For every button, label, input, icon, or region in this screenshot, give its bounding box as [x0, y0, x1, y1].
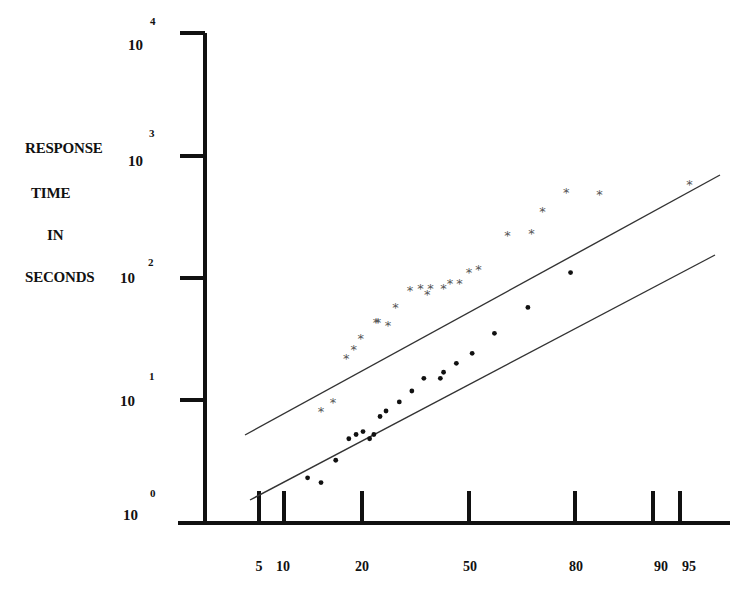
- y-axis-title-line-2: TIME: [31, 185, 70, 202]
- y-tick-exp-1e2: 2: [148, 256, 154, 268]
- x-tick-label-10: 10: [276, 559, 290, 575]
- dot-marker: [421, 376, 426, 381]
- y-tick-label-1e1: 10: [120, 393, 135, 410]
- chart-canvas: ************************: [0, 0, 751, 594]
- asterisk-marker: *: [343, 351, 350, 366]
- asterisk-marker: *: [375, 315, 382, 330]
- dot-marker: [454, 361, 459, 366]
- y-tick-label-1e2: 10: [120, 270, 135, 287]
- dot-marker: [470, 351, 475, 356]
- asterisk-marker: *: [456, 276, 463, 291]
- dot-marker: [333, 458, 338, 463]
- dot-marker: [409, 389, 414, 394]
- x-tick-label-50: 50: [463, 559, 477, 575]
- y-tick-exp-1e1: 1: [149, 370, 155, 382]
- y-tick-label-1e3: 10: [128, 153, 143, 170]
- y-tick-label-1e4: 10: [128, 37, 143, 54]
- dot-marker: [378, 414, 383, 419]
- y-axis-title-line-1: RESPONSE: [25, 140, 103, 157]
- x-tick-label-95: 95: [682, 559, 696, 575]
- asterisk-marker: *: [385, 318, 392, 333]
- asterisk-marker: *: [318, 404, 325, 419]
- dot-marker: [438, 376, 443, 381]
- asterisk-marker: *: [563, 185, 570, 200]
- asterisk-marker: *: [330, 395, 337, 410]
- asterisk-marker: *: [528, 226, 535, 241]
- dot-marker: [568, 270, 573, 275]
- dot-marker: [526, 305, 531, 310]
- x-tick-label-90: 90: [654, 559, 668, 575]
- dot-marker: [397, 400, 402, 405]
- asterisk-marker: *: [427, 281, 434, 296]
- asterisk-marker: *: [350, 342, 357, 357]
- y-axis: [180, 33, 205, 524]
- y-axis-title-line-3: IN: [47, 227, 63, 244]
- dot-marker: [384, 409, 389, 414]
- x-axis: [178, 491, 730, 523]
- dot-marker: [305, 475, 310, 480]
- asterisk-marker: *: [447, 276, 454, 291]
- asterisk-marker: *: [596, 187, 603, 202]
- dot-marker: [441, 370, 446, 375]
- dot-marker: [371, 432, 376, 437]
- dot-marker: [319, 480, 324, 485]
- y-tick-exp-1e0: 0: [150, 487, 156, 499]
- asterisk-marker: *: [686, 177, 693, 192]
- asterisk-marker: *: [475, 262, 482, 277]
- asterisk-marker: *: [466, 265, 473, 280]
- asterisk-marker: *: [392, 300, 399, 315]
- dot-series: [305, 270, 573, 485]
- asterisk-series: ************************: [318, 177, 693, 419]
- asterisk-marker: *: [357, 331, 364, 346]
- dot-marker: [492, 331, 497, 336]
- x-tick-label-20: 20: [355, 559, 369, 575]
- asterisk-marker: *: [504, 228, 511, 243]
- y-tick-exp-1e3: 3: [149, 127, 155, 139]
- upper-fit-line: [245, 175, 720, 435]
- lower-fit-line: [250, 255, 715, 500]
- dot-marker: [354, 432, 359, 437]
- x-tick-label-5: 5: [256, 559, 263, 575]
- y-tick-exp-1e4: 4: [150, 15, 156, 27]
- asterisk-marker: *: [407, 283, 414, 298]
- y-axis-title-line-4: SECONDS: [25, 269, 94, 286]
- y-tick-label-1e0: 10: [123, 507, 138, 524]
- dot-marker: [367, 436, 372, 441]
- dot-marker: [346, 436, 351, 441]
- dot-marker: [361, 429, 366, 434]
- x-tick-label-80: 80: [569, 559, 583, 575]
- asterisk-marker: *: [539, 204, 546, 219]
